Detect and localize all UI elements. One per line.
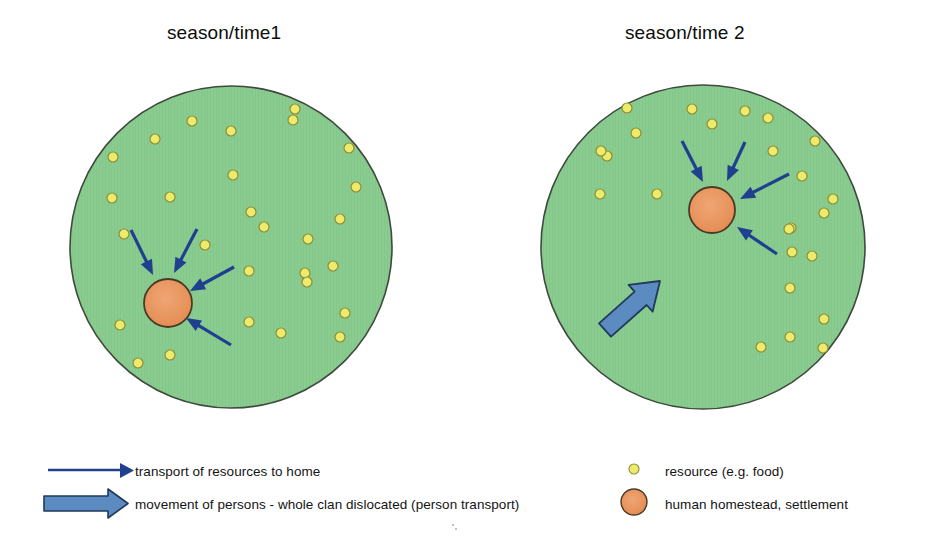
resource-dot — [687, 104, 697, 114]
resource-dot — [246, 207, 256, 217]
resource-dot — [818, 343, 828, 353]
panel-season-time-1 — [70, 86, 392, 408]
resource-dot — [335, 332, 345, 342]
resource-dot — [595, 189, 605, 199]
resource-dot — [828, 194, 838, 204]
legend-icon-block-arrow — [44, 489, 128, 518]
resource-dot — [763, 113, 773, 123]
resource-dot — [200, 240, 210, 250]
resource-dot — [351, 182, 361, 192]
resource-dot — [133, 358, 143, 368]
settlement-circle — [144, 279, 192, 327]
resource-dot — [165, 350, 175, 360]
diagram-graphics — [0, 0, 927, 540]
resource-dot — [785, 332, 795, 342]
resource-dot — [787, 247, 797, 257]
resource-dot — [797, 171, 807, 181]
resource-dot — [288, 115, 298, 125]
resource-dot — [276, 328, 286, 338]
resource-dot — [244, 266, 254, 276]
resource-dot — [819, 314, 829, 324]
legend-label-resource: resource (e.g. food) — [665, 464, 784, 479]
settlement-circle — [689, 187, 735, 233]
resource-dot — [740, 106, 750, 116]
resource-dot — [302, 277, 312, 287]
scan-speck — [455, 528, 457, 530]
legend-icon-settlement-circle — [621, 489, 647, 515]
resource-dot — [707, 119, 717, 129]
legend-label-transport: transport of resources to home — [135, 464, 320, 479]
resource-dot — [119, 229, 129, 239]
resource-dot — [768, 146, 778, 156]
resource-dot — [596, 146, 606, 156]
territory-circle — [541, 85, 865, 409]
resource-dot — [819, 208, 829, 218]
resource-dot — [335, 214, 345, 224]
resource-dot — [107, 193, 117, 203]
resource-dot — [115, 320, 125, 330]
diagram-canvas: season/time1 season/time 2 transport of … — [0, 0, 927, 540]
legend-label-movement: movement of persons - whole clan disloca… — [135, 497, 519, 512]
resource-dot — [228, 170, 238, 180]
resource-dot — [631, 128, 641, 138]
resource-dot — [652, 189, 662, 199]
resource-dot — [810, 136, 820, 146]
resource-dot — [344, 143, 354, 153]
resource-dot — [150, 134, 160, 144]
resource-dot — [785, 283, 795, 293]
legend-label-homestead: human homestead, settlement — [665, 497, 848, 512]
resource-dot — [622, 103, 632, 113]
resource-dot — [165, 192, 175, 202]
panel-season-time-2 — [541, 85, 865, 409]
resource-dot — [290, 104, 300, 114]
resource-dot — [226, 126, 236, 136]
resource-dot — [244, 317, 254, 327]
resource-dot — [756, 342, 766, 352]
resource-dot — [303, 234, 313, 244]
resource-dot — [187, 116, 197, 126]
resource-dot — [300, 268, 310, 278]
resource-dot — [108, 152, 118, 162]
resource-dot — [328, 261, 338, 271]
resource-dot — [784, 224, 794, 234]
resource-dot — [340, 308, 350, 318]
legend-icon-resource-dot — [629, 464, 639, 474]
resource-dot — [259, 222, 269, 232]
scan-speck — [452, 524, 454, 526]
legend-icon-thin-arrow — [48, 463, 134, 478]
resource-dot — [807, 251, 817, 261]
